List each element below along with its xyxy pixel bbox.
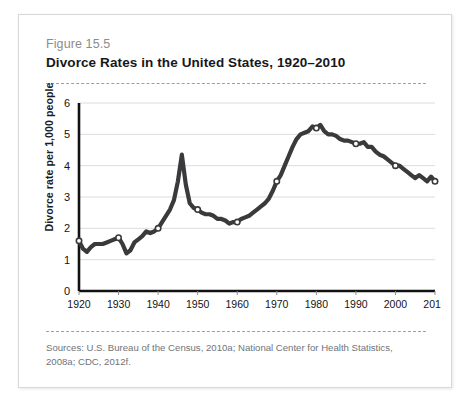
data-point-marker: [155, 226, 160, 231]
data-point-marker: [393, 163, 398, 168]
x-tick-label: 2000: [384, 298, 408, 310]
x-tick-label: 1950: [186, 298, 210, 310]
divorce-rate-line-chart: 0123456192019301940195019601970198019902…: [31, 97, 441, 325]
x-tick-label: 2010: [423, 298, 441, 310]
data-point-marker: [195, 207, 200, 212]
divider-bottom: [46, 331, 426, 332]
y-tick-label: 6: [64, 97, 70, 109]
data-point-marker: [274, 179, 279, 184]
source-citation: Sources: U.S. Bureau of the Census, 2010…: [46, 341, 418, 369]
y-tick-label: 1: [64, 254, 70, 266]
y-tick-label: 4: [64, 160, 70, 172]
data-point-marker: [235, 219, 240, 224]
chart-plot-area: Divorce rate per 1,000 people 0123456192…: [31, 97, 441, 325]
x-tick-label: 1970: [265, 298, 289, 310]
divider-top: [46, 83, 426, 84]
y-tick-label: 5: [64, 128, 70, 140]
y-tick-label: 2: [64, 222, 70, 234]
y-tick-label: 0: [64, 285, 70, 297]
x-tick-label: 1960: [226, 298, 250, 310]
x-tick-label: 1930: [107, 298, 131, 310]
y-tick-label: 3: [64, 191, 70, 203]
data-point-marker: [353, 141, 358, 146]
x-tick-label: 1920: [67, 298, 91, 310]
data-point-marker: [116, 235, 121, 240]
data-point-marker: [76, 238, 81, 243]
data-point-marker: [314, 125, 319, 130]
x-tick-label: 1990: [344, 298, 368, 310]
figure-number-label: Figure 15.5: [46, 37, 110, 51]
data-point-marker: [432, 179, 437, 184]
data-line: [79, 125, 435, 253]
figure-card: Figure 15.5 Divorce Rates in the United …: [18, 14, 452, 388]
x-tick-label: 1980: [305, 298, 329, 310]
x-tick-label: 1940: [146, 298, 170, 310]
figure-title: Divorce Rates in the United States, 1920…: [46, 55, 345, 70]
